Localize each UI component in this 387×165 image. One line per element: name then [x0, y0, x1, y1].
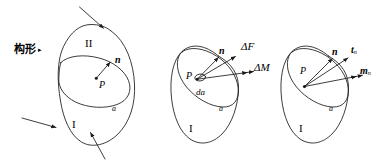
vector-n-left — [96, 62, 110, 78]
configuration-caption: 构形▸ — [14, 44, 42, 55]
surface-label-a-middle: a — [219, 105, 223, 113]
configuration-caption-text: 构形 — [14, 43, 36, 56]
vector-label-delta-f-middle: ΔF — [241, 41, 254, 52]
vector-label-delta-m-middle: ΔM — [254, 62, 270, 73]
surface-label-a-left: a — [112, 105, 116, 113]
panel-middle-graphics — [171, 46, 254, 143]
point-label-p-right: P — [300, 66, 306, 76]
region-label-i-left: I — [72, 119, 76, 130]
region-label-ii-left: II — [85, 38, 92, 49]
area-element-label-da: da — [196, 88, 205, 97]
point-label-p-left: P — [99, 80, 105, 90]
incoming-arrow-top-left — [80, 7, 104, 28]
figure-canvas — [0, 0, 387, 165]
vector-delta-m-middle — [197, 73, 247, 80]
continuum-mechanics-figure: 构形▸ II n P a I n ΔF ΔM P da a I n tn mn … — [0, 0, 387, 165]
configuration-caption-marker: ▸ — [38, 46, 42, 54]
panel-right-graphics — [281, 46, 363, 143]
body-outline-left — [58, 25, 134, 146]
vector-label-m-n-base: m — [360, 65, 368, 76]
body-outline-right — [281, 46, 349, 143]
point-label-p-middle: P — [186, 71, 192, 81]
surface-label-a-right: a — [329, 105, 333, 113]
vector-delta-m-middle-second-head — [244, 72, 254, 73]
panel-left-graphics — [22, 7, 135, 159]
vector-label-n-middle: n — [219, 46, 225, 56]
vector-label-m-n-subscript: n — [368, 69, 371, 76]
vector-label-t-n-right: tn — [351, 45, 357, 56]
region-label-i-right: I — [299, 123, 303, 134]
vector-label-t-n-subscript: n — [354, 48, 357, 55]
region-label-i-middle: I — [189, 123, 193, 134]
incoming-arrow-bottom-left — [91, 133, 106, 160]
vector-label-n-left: n — [115, 55, 121, 65]
vector-label-n-right: n — [332, 47, 338, 57]
vector-label-m-n-right: mn — [360, 66, 371, 77]
incoming-arrow-left-left — [22, 118, 56, 128]
